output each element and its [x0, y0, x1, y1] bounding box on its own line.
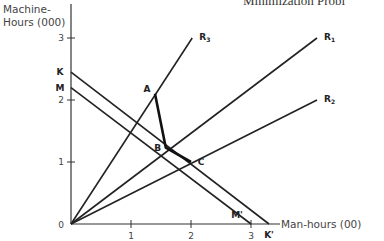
isocost-end-label: M'	[231, 210, 243, 220]
x-tick-label: 2	[188, 231, 194, 241]
origin-label: 0	[58, 220, 64, 230]
y-tick-label: 1	[58, 157, 64, 167]
ray-r2	[71, 100, 317, 224]
ray-label: R1	[324, 32, 335, 43]
x-tick-label: 1	[128, 231, 134, 241]
point-label-c: C	[198, 157, 205, 167]
x-tick-label: 3	[248, 231, 254, 241]
isocost-start-label: M	[56, 83, 65, 93]
y-tick-label: 3	[58, 33, 64, 43]
point-label-a: A	[144, 84, 151, 94]
isocost-start-label: K	[57, 67, 65, 77]
ray-r3	[71, 38, 192, 224]
ray-label: R3	[199, 32, 210, 43]
ray-r1	[71, 38, 317, 224]
ray-label: R2	[324, 94, 335, 105]
y-tick-label: 2	[58, 95, 64, 105]
point-label-b: B	[154, 143, 161, 153]
isocost-end-label: K'	[264, 230, 274, 240]
chart-plot: 0123123R3R1R2KK'MM'ABC	[0, 0, 384, 241]
